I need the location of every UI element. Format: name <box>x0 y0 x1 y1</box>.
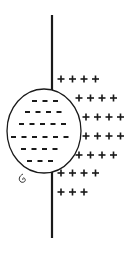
negative-charge <box>43 136 48 138</box>
negative-charge <box>51 123 56 125</box>
positive-charge <box>106 114 113 121</box>
positive-charge <box>110 95 117 102</box>
positive-charge <box>58 189 65 196</box>
positive-charge <box>92 76 99 83</box>
negative-charges <box>11 100 69 162</box>
negative-charge <box>46 111 51 113</box>
negative-charge <box>53 100 58 102</box>
negative-charge <box>48 160 53 162</box>
positive-charge <box>58 170 65 177</box>
negative-charge <box>22 136 27 138</box>
positive-charge <box>83 114 90 121</box>
positive-charge <box>83 133 90 140</box>
negative-charge <box>21 148 26 150</box>
negative-charge <box>27 160 32 162</box>
negative-charge <box>25 111 30 113</box>
positive-charge <box>92 170 99 177</box>
positive-charge <box>81 76 88 83</box>
negative-charge <box>32 148 37 150</box>
positive-charge <box>58 76 65 83</box>
positive-charges <box>58 76 125 196</box>
positive-charge <box>94 114 101 121</box>
negative-charge <box>64 136 69 138</box>
positive-charge <box>87 152 94 159</box>
negative-charge <box>42 148 47 150</box>
negative-charge <box>53 136 58 138</box>
positive-charge <box>69 170 76 177</box>
negative-charge <box>40 123 45 125</box>
positive-charge <box>87 95 94 102</box>
positive-charge <box>69 76 76 83</box>
positive-charge <box>117 133 124 140</box>
positive-charge <box>99 152 106 159</box>
negative-charge <box>43 100 48 102</box>
hook-icon <box>19 174 25 182</box>
positive-charge <box>81 189 88 196</box>
negative-charge <box>11 136 16 138</box>
positive-charge <box>69 189 76 196</box>
negative-charge <box>57 111 62 113</box>
charge-diagram <box>0 0 136 253</box>
positive-charge <box>76 95 83 102</box>
positive-charge <box>94 133 101 140</box>
negative-charge <box>53 148 58 150</box>
positive-charge <box>110 152 117 159</box>
positive-charge <box>106 133 113 140</box>
negative-charge <box>32 100 37 102</box>
positive-charge <box>99 95 106 102</box>
negative-charge <box>36 111 41 113</box>
positive-charge <box>81 170 88 177</box>
negative-charge <box>19 123 24 125</box>
negative-charge <box>32 136 37 138</box>
negative-charge <box>61 123 66 125</box>
negative-charge <box>30 123 35 125</box>
positive-charge <box>117 114 124 121</box>
negative-charge <box>38 160 43 162</box>
